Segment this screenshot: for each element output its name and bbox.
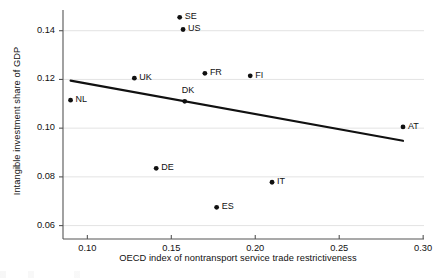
data-point-de[interactable] (154, 166, 159, 171)
point-label-fi: FI (255, 70, 263, 80)
point-label-uk: UK (139, 72, 152, 82)
data-point-uk[interactable] (132, 76, 137, 81)
data-point-us[interactable] (181, 27, 186, 32)
data-point-dk[interactable] (182, 99, 187, 104)
data-point-it[interactable] (270, 180, 275, 185)
point-label-nl: NL (76, 94, 88, 104)
x-tick-label-2: 0.20 (235, 243, 275, 253)
data-point-fr[interactable] (202, 71, 207, 76)
y-tick-label-2: 0.10 (21, 122, 55, 132)
y-tick-label-0: 0.06 (21, 220, 55, 230)
point-label-at: AT (408, 121, 419, 131)
x-tick-label-4: 0.30 (403, 243, 434, 253)
data-point-se[interactable] (177, 15, 182, 20)
data-point-nl[interactable] (68, 98, 73, 103)
point-label-fr: FR (210, 67, 222, 77)
point-label-es: ES (222, 201, 234, 211)
x-tick-label-0: 0.10 (67, 243, 107, 253)
y-tick-label-1: 0.08 (21, 171, 55, 181)
y-tick-label-3: 0.12 (21, 73, 55, 83)
data-point-es[interactable] (214, 205, 219, 210)
plot-canvas (0, 0, 434, 278)
data-point-at[interactable] (401, 125, 406, 130)
x-axis-title: OECD index of nontransport service trade… (88, 253, 388, 263)
data-point-fi[interactable] (248, 73, 253, 78)
point-label-se: SE (185, 11, 197, 21)
scatter-chart-figure: Intangible investment share of GDP OECD … (0, 0, 434, 278)
x-tick-label-3: 0.25 (319, 243, 359, 253)
y-tick-label-4: 0.14 (21, 25, 55, 35)
point-label-it: IT (277, 176, 285, 186)
point-label-dk: DK (182, 85, 195, 95)
point-label-us: US (188, 23, 201, 33)
x-tick-label-1: 0.15 (151, 243, 191, 253)
page-edge-artifact (0, 271, 434, 278)
point-label-de: DE (161, 162, 174, 172)
trendline (71, 81, 403, 141)
